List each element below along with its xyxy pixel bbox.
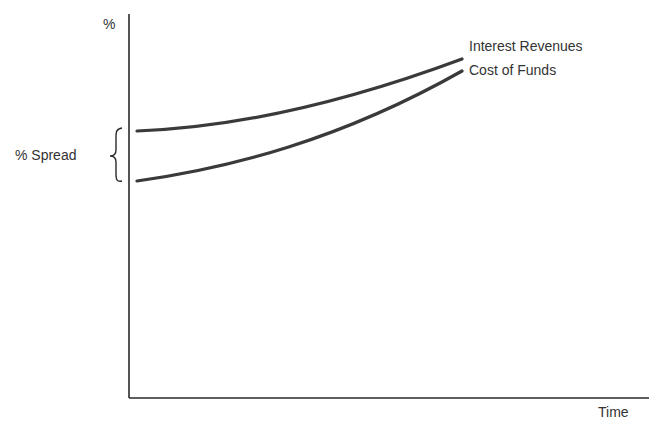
spread-label: % Spread (15, 147, 76, 163)
legend-cost-of-funds: Cost of Funds (469, 62, 556, 78)
legend-interest-revenues: Interest Revenues (469, 38, 583, 54)
spread-brace (110, 128, 122, 181)
x-axis-label: Time (598, 404, 629, 420)
y-axis-label: % (103, 16, 115, 32)
